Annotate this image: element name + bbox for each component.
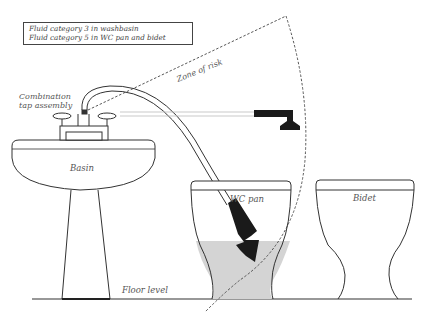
basin-pedestal [62, 190, 110, 299]
diagram-canvas: Zone of risk Combination tap assembly Ba… [0, 0, 432, 327]
legend-line-washbasin: Fluid category 3 in washbasin [29, 24, 187, 33]
legend-line-wc-bidet: Fluid category 5 in WC pan and bidet [29, 33, 187, 42]
label-zone-of-risk: Zone of risk [174, 57, 223, 84]
shower-head-wall [254, 110, 300, 130]
label-combination-line1: Combination [19, 92, 71, 101]
wc-pan-lid [191, 181, 291, 190]
label-wc-pan: WC pan [230, 194, 264, 204]
legend-box: Fluid category 3 in washbasin Fluid cate… [23, 22, 193, 45]
bidet-lid [316, 180, 414, 190]
combination-tap-assembly [53, 110, 116, 140]
label-basin: Basin [69, 163, 94, 173]
label-combination-line2: tap assembly [19, 101, 73, 110]
label-floor-level: Floor level [121, 285, 168, 295]
backflow-diagram: Fluid category 3 in washbasin Fluid cate… [0, 0, 432, 327]
bidet-body [316, 190, 414, 299]
label-bidet: Bidet [352, 193, 376, 203]
